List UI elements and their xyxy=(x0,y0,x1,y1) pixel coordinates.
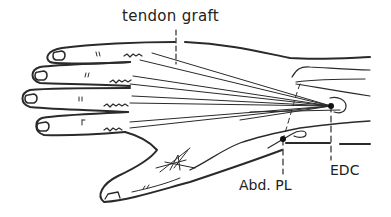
finger-index xyxy=(47,42,175,64)
edc-label: EDC xyxy=(330,163,359,177)
nail-middle xyxy=(35,71,47,80)
abd-pl-point xyxy=(280,136,286,142)
nail-little xyxy=(37,122,49,131)
thumb-tendon xyxy=(132,178,180,192)
forearm-top-edge xyxy=(185,42,370,59)
wrist-bottom-edge xyxy=(286,143,370,144)
edc-point xyxy=(328,103,334,109)
tendon-graft-lines xyxy=(130,53,340,128)
diagram-canvas: tendon graft Abd. PL EDC xyxy=(0,0,391,217)
tendon-cut-ends xyxy=(104,54,142,131)
radius-outline xyxy=(292,67,370,82)
abd-pl-label: Abd. PL xyxy=(239,178,292,192)
tendon-graft-label: tendon graft xyxy=(122,9,219,24)
thumb-nail xyxy=(105,192,120,199)
finger-ring xyxy=(23,88,131,112)
thumb-scribble xyxy=(156,148,195,172)
nail-index xyxy=(53,51,65,60)
hand-drawing xyxy=(0,0,391,217)
nail-ring xyxy=(25,94,37,103)
